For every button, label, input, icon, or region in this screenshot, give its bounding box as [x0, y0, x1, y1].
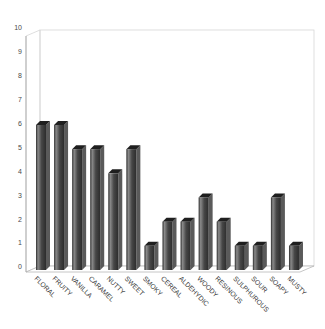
bar-front-face — [108, 173, 118, 270]
bar-side-face — [245, 242, 249, 270]
chart-canvas: 012345678910FLORALFRUITYVANILLACARAMELNU… — [0, 0, 325, 329]
bar-vanilla — [72, 145, 86, 270]
bar-cereal — [162, 218, 176, 270]
bar-resinous — [217, 218, 231, 270]
y-tick-1: 1 — [18, 239, 22, 246]
bar-side-face — [209, 193, 213, 270]
bar-side-face — [118, 169, 122, 270]
bar-front-face — [72, 149, 82, 270]
bar-front-face — [144, 246, 154, 270]
y-axis-ticks: 012345678910 — [14, 24, 22, 270]
bar-side-face — [263, 242, 267, 270]
y-tick-8: 8 — [18, 72, 22, 79]
y-tick-0: 0 — [18, 263, 22, 270]
y-tick-5: 5 — [18, 144, 22, 151]
bar-front-face — [289, 246, 299, 270]
bar-front-face — [90, 149, 100, 270]
bar-nutty — [108, 169, 122, 270]
bar-caramel — [90, 145, 104, 270]
bar-front-face — [181, 222, 191, 270]
bar-front-face — [217, 222, 227, 270]
y-tick-7: 7 — [18, 96, 22, 103]
bar-front-face — [162, 222, 172, 270]
bar-front-face — [54, 125, 64, 270]
bar-side-face — [82, 145, 86, 270]
bar-side-face — [64, 121, 68, 270]
y-tick-2: 2 — [18, 216, 22, 223]
bar-side-face — [100, 145, 104, 270]
y-tick-6: 6 — [18, 120, 22, 127]
x-label-musty: MUSTY — [286, 275, 308, 297]
bar-soapy — [271, 193, 285, 270]
bar-front-face — [271, 197, 281, 270]
bar-sweet — [126, 145, 140, 270]
bar-aldehydic — [181, 218, 195, 270]
y-tick-3: 3 — [18, 192, 22, 199]
bars — [36, 121, 303, 270]
bar-fruity — [54, 121, 68, 270]
bar-front-face — [36, 125, 46, 270]
bar-woody — [199, 193, 213, 270]
bar-sulphurous — [235, 242, 249, 270]
bar-side-face — [191, 218, 195, 270]
bar-front-face — [235, 246, 245, 270]
bar-floral — [36, 121, 50, 270]
bar-side-face — [227, 218, 231, 270]
bar-side-face — [299, 242, 303, 270]
bar-front-face — [199, 197, 209, 270]
x-axis-labels: FLORALFRUITYVANILLACARAMELNUTTYSWEETSMOK… — [33, 275, 308, 314]
bar-side-face — [46, 121, 50, 270]
y-tick-4: 4 — [18, 168, 22, 175]
bar-side-face — [136, 145, 140, 270]
bar-side-face — [281, 193, 285, 270]
y-tick-9: 9 — [18, 48, 22, 55]
bar-front-face — [253, 246, 263, 270]
bar-front-face — [126, 149, 136, 270]
bar-side-face — [172, 218, 176, 270]
bar-side-face — [154, 242, 158, 270]
bar-sour — [253, 242, 267, 270]
bar-musty — [289, 242, 303, 270]
y-tick-10: 10 — [14, 24, 22, 31]
bar-chart: 012345678910FLORALFRUITYVANILLACARAMELNU… — [0, 0, 325, 329]
bar-smoky — [144, 242, 158, 270]
